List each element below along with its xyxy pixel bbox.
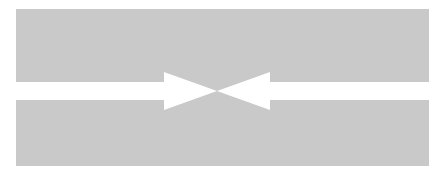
converging-arrows-diagram	[0, 0, 443, 178]
